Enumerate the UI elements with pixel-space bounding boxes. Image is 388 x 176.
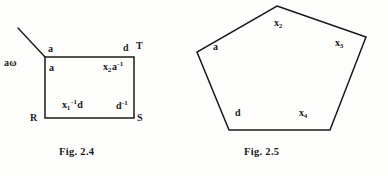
label-a-inside: a [49,63,54,73]
x1-inverse-d-subscript: 1 [67,104,71,112]
figure-2-4-caption: Fig. 2.4 [59,146,94,157]
d-inverse-superscript: -1 [122,99,128,107]
label-a-top-edge: a [48,44,53,54]
label-d-top-edge: d [123,43,129,53]
x1-inverse-d-tail: d [77,99,83,110]
label-x3: x3 [335,38,344,48]
x2-a-inverse-superscript: -1 [117,60,123,68]
label-x4: x4 [299,108,308,118]
label-d-inverse: d-1 [116,101,128,111]
label-vertex-r: R [30,113,37,123]
label-x1-inverse-d: x1-1d [62,100,83,110]
label-d-pentagon: d [235,108,241,118]
figure-2-4-drawing [0,0,194,176]
label-x2-a-inverse: x2a-1 [103,62,123,72]
incoming-edge-line [18,28,45,57]
figure-2-4: aω a a d T x2a-1 x1-1d d-1 R S Fig. 2.4 [0,0,194,176]
x4-subscript: 4 [304,112,308,120]
figure-2-5: x2 x3 x4 a d Fig. 2.5 [194,0,388,176]
x2-subscript: 2 [279,22,283,30]
label-a-omega: aω [4,58,17,68]
x1-inverse-d-superscript: -1 [71,98,77,106]
label-vertex-t: T [136,41,143,51]
figure-2-5-caption: Fig. 2.5 [244,146,279,157]
d-inverse-base: d [116,100,122,111]
label-a-pentagon: a [213,42,218,52]
x2-a-inverse-subscript: 2 [108,66,112,74]
label-vertex-s: S [137,113,143,123]
figure-2-5-drawing [194,0,388,176]
label-x2: x2 [274,18,283,28]
figure-page: aω a a d T x2a-1 x1-1d d-1 R S Fig. 2.4 … [0,0,388,176]
x3-subscript: 3 [340,42,344,50]
